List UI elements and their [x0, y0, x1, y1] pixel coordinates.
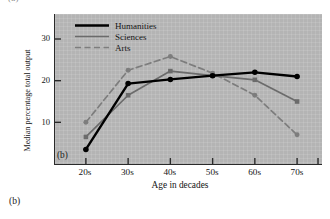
data-point-arts-20s [83, 120, 88, 125]
panel-label-top: (a) [8, 0, 19, 3]
data-point-humanities-40s [168, 77, 174, 83]
legend-swatch-humanities [74, 20, 110, 31]
data-point-sciences-40s [168, 69, 173, 74]
legend-label: Sciences [115, 32, 147, 42]
data-point-arts-40s [168, 54, 173, 59]
chart-legend: HumanitiesSciencesArts [74, 20, 186, 53]
x-tick-label: 60s [248, 167, 261, 177]
data-point-arts-60s [252, 93, 257, 98]
series-layer [83, 54, 300, 152]
legend-item-humanities: Humanities [74, 20, 186, 31]
x-tick-label: 50s [206, 167, 219, 177]
legend-swatch-arts [74, 42, 110, 53]
x-tick-label: 40s [163, 167, 176, 177]
data-point-humanities-50s [210, 73, 216, 79]
y-tick-label: 20 [32, 75, 50, 85]
y-axis-tick-labels: 102030 [28, 14, 50, 165]
data-point-humanities-30s [125, 81, 131, 87]
legend-swatch-sciences [74, 31, 110, 42]
data-point-humanities-20s [83, 147, 89, 153]
legend-label: Arts [115, 43, 131, 53]
x-axis-title: Age in decades [55, 180, 305, 190]
panel-label-bottom: (b) [9, 196, 20, 206]
legend-item-arts: Arts [74, 42, 186, 53]
series-line-arts [86, 57, 297, 135]
figure-root: (a) Median percentage total output 10203… [0, 0, 330, 219]
x-axis-tick-labels: 20s30s40s50s60s70s [54, 167, 322, 181]
axis-ticks [55, 39, 318, 164]
legend-label: Humanities [115, 21, 157, 31]
data-point-humanities-60s [252, 70, 258, 76]
data-point-sciences-60s [253, 78, 258, 83]
y-tick-label: 10 [32, 117, 50, 127]
x-tick-label: 30s [121, 167, 134, 177]
data-point-humanities-70s [294, 74, 300, 80]
data-point-arts-70s [295, 132, 300, 137]
panel-tag-inner: (b) [57, 150, 68, 160]
data-point-sciences-70s [295, 99, 300, 104]
x-tick-label: 20s [79, 167, 92, 177]
data-point-sciences-30s [126, 93, 131, 98]
data-point-arts-30s [126, 68, 131, 73]
legend-item-sciences: Sciences [74, 31, 186, 42]
data-point-sciences-20s [84, 135, 89, 140]
x-tick-label: 70s [291, 167, 304, 177]
y-tick-label: 30 [32, 33, 50, 43]
